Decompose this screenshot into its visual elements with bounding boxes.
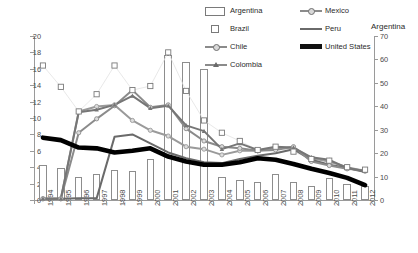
data-point-brazil-2007: [273, 144, 278, 149]
data-point-brazil-2008: [291, 149, 296, 154]
data-point-chile-1996: [77, 131, 81, 135]
data-point-brazil-2006: [255, 147, 260, 152]
data-point-mexico-1999: [130, 118, 134, 122]
data-point-chile-2005: [238, 146, 242, 150]
data-point-brazil-2001: [166, 50, 171, 55]
data-point-brazil-2010: [327, 158, 332, 163]
data-point-brazil-2003: [201, 118, 206, 123]
data-point-brazil-2000: [148, 83, 153, 88]
data-point-mexico-2002: [184, 145, 188, 149]
data-point-chile-2010: [327, 163, 331, 167]
data-point-brazil-2005: [237, 138, 242, 143]
data-point-brazil-1998: [112, 63, 117, 68]
data-point-mexico-2001: [166, 134, 170, 138]
series-layer: [0, 0, 418, 253]
data-point-brazil-2011: [345, 165, 350, 170]
data-point-chile-2002: [184, 127, 188, 131]
data-point-brazil-1997: [94, 92, 99, 97]
data-point-brazil-2002: [184, 88, 189, 93]
data-point-chile-2003: [202, 139, 206, 143]
data-point-brazil-2004: [219, 130, 224, 135]
data-point-brazil-1999: [130, 88, 135, 93]
data-point-mexico-2000: [148, 128, 152, 132]
data-point-brazil-2012: [362, 167, 367, 172]
data-point-mexico-2004: [220, 153, 224, 157]
data-point-brazil-1994: [40, 63, 45, 68]
data-point-mexico-2003: [202, 147, 206, 151]
data-point-chile-1997: [95, 117, 99, 121]
data-point-brazil-1995: [58, 84, 63, 89]
data-point-brazil-1996: [76, 109, 81, 114]
data-point-brazil-2009: [309, 156, 314, 161]
series-line-chile: [43, 90, 365, 199]
chart-container: ArgentinaMexicoBrazilPeruChileUnited Sta…: [0, 0, 418, 253]
